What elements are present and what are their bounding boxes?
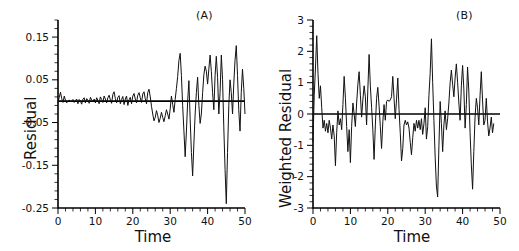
panel-b: (B) Weighted Residual Time 3210-1-2-3010… [259, 0, 519, 251]
svg-text:1: 1 [297, 76, 304, 88]
svg-text:50: 50 [493, 215, 506, 227]
svg-text:20: 20 [126, 215, 139, 227]
svg-text:-0.25: -0.25 [22, 202, 49, 214]
svg-text:-3: -3 [294, 202, 304, 214]
svg-text:0: 0 [310, 215, 317, 227]
figure-residual-diagnostics: (A) Residual Time 0.150.05-0.05-0.15-0.2… [0, 0, 519, 251]
svg-text:2: 2 [297, 45, 304, 57]
svg-text:40: 40 [201, 215, 214, 227]
svg-text:0.15: 0.15 [26, 31, 49, 43]
svg-text:10: 10 [344, 215, 357, 227]
svg-text:-0.15: -0.15 [22, 159, 49, 171]
svg-text:10: 10 [89, 215, 102, 227]
svg-text:0: 0 [55, 215, 62, 227]
svg-text:30: 30 [419, 215, 432, 227]
data-trace [58, 46, 245, 204]
svg-text:-0.05: -0.05 [22, 116, 49, 128]
svg-text:-1: -1 [294, 139, 304, 151]
panel-a-plot: 0.150.05-0.05-0.15-0.2501020304050 [0, 0, 259, 251]
svg-text:50: 50 [238, 215, 251, 227]
svg-text:0.05: 0.05 [26, 73, 49, 85]
svg-text:30: 30 [164, 215, 177, 227]
svg-text:20: 20 [381, 215, 394, 227]
panel-b-plot: 3210-1-2-301020304050 [259, 0, 519, 251]
svg-text:0: 0 [297, 108, 304, 120]
data-trace [313, 36, 494, 197]
panel-a: (A) Residual Time 0.150.05-0.05-0.15-0.2… [0, 0, 259, 251]
svg-text:40: 40 [456, 215, 469, 227]
svg-text:-2: -2 [294, 170, 304, 182]
svg-text:3: 3 [297, 14, 304, 26]
